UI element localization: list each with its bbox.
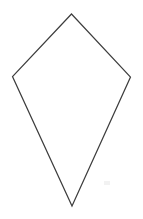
drawing-canvas <box>0 0 143 219</box>
kite-shape-svg <box>0 0 143 219</box>
background-speck <box>104 181 110 185</box>
